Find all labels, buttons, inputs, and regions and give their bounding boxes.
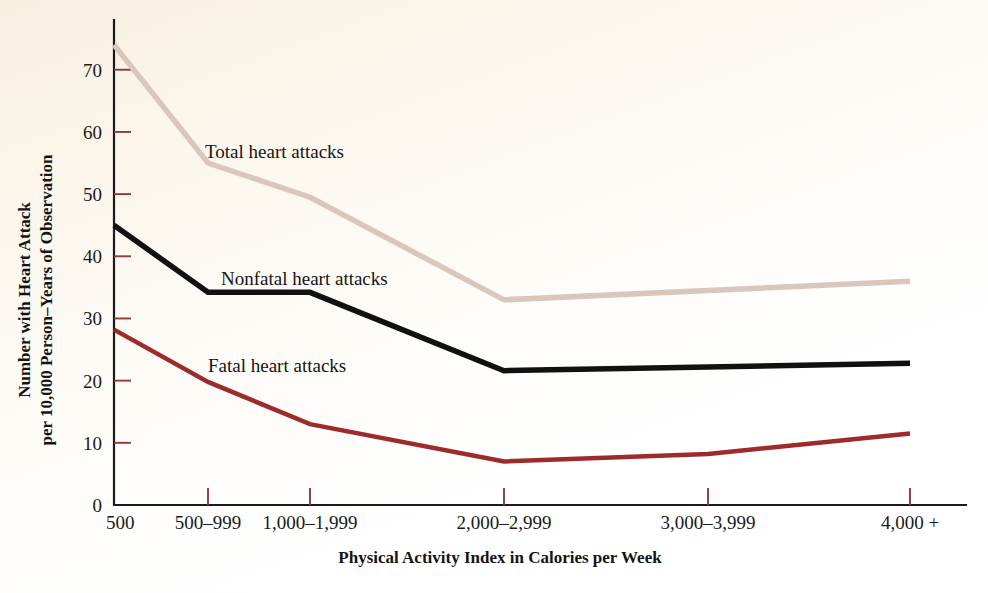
series-label-total-heart-attacks: Total heart attacks	[205, 141, 344, 162]
y-tick-label: 50	[83, 184, 102, 205]
y-tick-label: 10	[83, 433, 102, 454]
series-annotations: Total heart attacksNonfatal heart attack…	[205, 141, 388, 376]
x-tick-label: 4,000 +	[881, 512, 939, 533]
x-tick-label: 3,000–3,999	[661, 512, 756, 533]
series-line-fatal-heart-attacks	[114, 330, 910, 462]
x-tick-label: 500–999	[175, 512, 242, 533]
y-axis-ticks: 010203040506070	[83, 60, 131, 516]
y-tick-label: 40	[83, 246, 102, 267]
x-axis-title: Physical Activity Index in Calories per …	[338, 548, 662, 567]
y-tick-label: 30	[83, 308, 102, 329]
y-tick-label: 20	[83, 371, 102, 392]
y-tick-label: 0	[93, 495, 103, 516]
y-axis-title: Number with Heart Attack per 10,000 Pers…	[15, 154, 56, 446]
axis-lines	[114, 20, 966, 505]
series-line-total-heart-attacks	[114, 45, 910, 300]
chart-figure: Number with Heart Attack per 10,000 Pers…	[0, 0, 988, 593]
x-tick-label: 2,000–2,999	[457, 512, 552, 533]
series-label-nonfatal-heart-attacks: Nonfatal heart attacks	[221, 268, 388, 289]
x-tick-label: 1,000–1,999	[263, 512, 358, 533]
y-tick-label: 60	[83, 122, 102, 143]
x-axis-ticks: 500500–9991,000–1,9992,000–2,9993,000–3,…	[106, 488, 939, 533]
series-lines	[114, 45, 910, 462]
line-chart: Number with Heart Attack per 10,000 Pers…	[0, 0, 988, 593]
x-tick-label: 500	[106, 512, 135, 533]
y-tick-label: 70	[83, 60, 102, 81]
y-axis-title-line1: Number with Heart Attack	[15, 202, 34, 398]
y-axis-title-line2: per 10,000 Person–Years of Observation	[37, 154, 56, 446]
series-label-fatal-heart-attacks: Fatal heart attacks	[208, 355, 346, 376]
